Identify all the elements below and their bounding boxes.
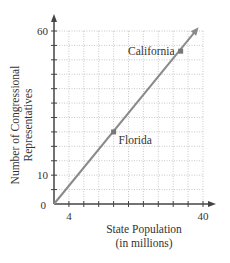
trend-line: [54, 30, 197, 204]
y-axis-label-line-1: Number of Congressional: [9, 66, 22, 185]
y-axis-label-line-2: Representatives: [22, 66, 35, 185]
y-axis-arrow-icon: [51, 14, 57, 22]
x-axis-label: State Population (in millions): [84, 222, 204, 250]
x-axis-arrow-icon: [208, 201, 216, 207]
data-point-california: [178, 49, 183, 54]
origin-label: 0: [41, 199, 47, 211]
data-label-california: California: [128, 45, 175, 57]
x-axis-label-line-1: State Population: [84, 222, 204, 236]
data-label-florida: Florida: [119, 134, 152, 146]
x-axis-label-line-2: (in millions): [84, 236, 204, 250]
y-tick-label: 60: [37, 25, 49, 37]
x-tick-label: 40: [198, 210, 210, 222]
y-axis-label: Number of Congressional Representatives: [2, 55, 42, 195]
data-point-florida: [111, 129, 116, 134]
x-tick-label: 4: [66, 210, 72, 222]
